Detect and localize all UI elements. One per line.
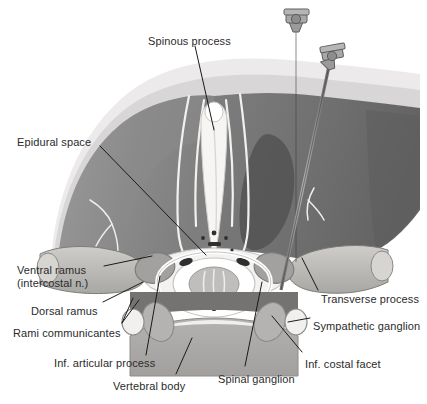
anatomy-illustration (0, 0, 427, 404)
label-dorsal-ramus: Dorsal ramus (31, 305, 98, 318)
figure-canvas: Spinous process Epidural space Ventral r… (0, 0, 427, 404)
label-transverse-process: Transverse process (321, 293, 419, 306)
label-ventral-ramus: Ventral ramus (17, 264, 86, 277)
label-rami-communicantes: Rami communicantes (13, 327, 121, 340)
label-sympathetic-ganglion: Sympathetic ganglion (313, 320, 420, 333)
label-ventral-ramus-sub: (intercostal n.) (17, 277, 88, 290)
label-inf-articular-process: Inf. articular process (54, 357, 155, 370)
label-vertebral-body: Vertebral body (113, 380, 185, 393)
label-spinous-process: Spinous process (148, 35, 231, 48)
label-inf-costal-facet: Inf. costal facet (305, 358, 381, 371)
label-spinal-ganglion: Spinal ganglion (218, 373, 295, 386)
label-epidural-space: Epidural space (17, 136, 91, 149)
